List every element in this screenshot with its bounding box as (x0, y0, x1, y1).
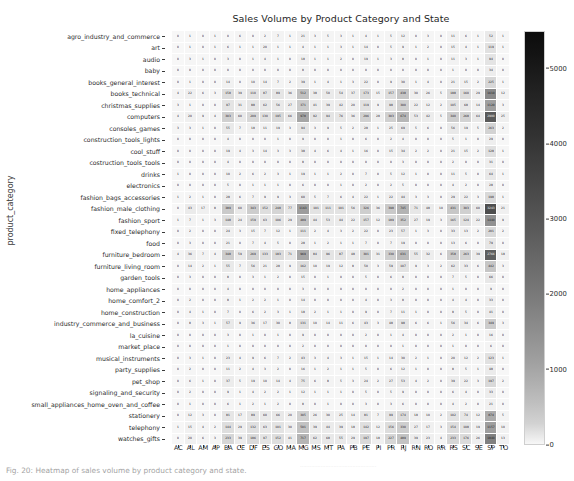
heatmap-cell-value: 6 (239, 35, 241, 38)
heatmap-cell: 0 (497, 66, 510, 78)
heatmap-cell: 39 (310, 422, 323, 434)
heatmap-cell-value: 28 (276, 265, 280, 268)
heatmap-cell: 4 (360, 296, 373, 308)
heatmap-cell-value: 0 (214, 196, 216, 199)
heatmap-cell: 1 (272, 330, 285, 342)
heatmap-cell-value: 1 (189, 46, 191, 49)
heatmap-cell-value: 3 (277, 173, 279, 176)
heatmap-cell-value: 9 (202, 115, 204, 118)
heatmap-cell-value: 4 (177, 92, 179, 95)
heatmap-cell: 0 (285, 135, 298, 147)
heatmap-cell: 1 (197, 353, 210, 365)
heatmap-cell-value: 0 (377, 138, 379, 141)
heatmap-cell-value: 27 (289, 104, 293, 107)
y-tick-label: fixed_telephony (18, 227, 168, 239)
heatmap-cell-value: 92 (314, 115, 318, 118)
heatmap-cell-value: 2 (289, 81, 291, 84)
y-tick-text: musical_instruments (96, 356, 160, 362)
heatmap-cell-value: 0 (239, 184, 241, 187)
x-tick-label: MA (285, 445, 298, 459)
heatmap-cell-value: 8 (227, 276, 229, 279)
heatmap-cell-value: 6 (239, 196, 241, 199)
heatmap-cell: 6 (460, 238, 473, 250)
heatmap-cell: 2 (310, 227, 323, 239)
heatmap-cell-value: 0 (502, 299, 504, 302)
heatmap-cell-value: 4 (365, 299, 367, 302)
heatmap-cell-value: 5 (327, 35, 329, 38)
heatmap-cell-value: 371 (300, 104, 306, 107)
heatmap-cell-value: 2 (440, 104, 442, 107)
heatmap-cell: 0 (247, 158, 260, 170)
heatmap-cell-value: 0 (214, 184, 216, 187)
heatmap-cell-value: 0 (177, 322, 179, 325)
heatmap-cell-value: 1 (340, 368, 342, 371)
heatmap-cell-value: 5 (415, 127, 417, 130)
heatmap-cell: 165 (447, 215, 460, 227)
heatmap-cell-value: 0 (214, 334, 216, 337)
heatmap-cell-value: 9 (302, 334, 304, 337)
heatmap-cell: 27 (385, 376, 398, 388)
heatmap-cell-value: 4 (452, 299, 454, 302)
heatmap-cell-value: 1 (415, 81, 417, 84)
heatmap-cell: 3 (410, 192, 423, 204)
heatmap-cell-value: 0 (502, 242, 504, 245)
heatmap-cell: 39 (322, 100, 335, 112)
heatmap-cell: 9 (397, 388, 410, 400)
colorbar-tick-text: 0 (550, 441, 554, 449)
heatmap-cell: 81 (360, 411, 373, 423)
heatmap-cell: 19 (460, 123, 473, 135)
heatmap-cell: 5 (435, 112, 448, 124)
heatmap-cell: 0 (235, 273, 248, 285)
heatmap-cell-value: 22 (464, 380, 468, 383)
heatmap-cell-value: 0 (340, 288, 342, 291)
heatmap-cell-value: 0 (289, 368, 291, 371)
heatmap-cell: 0 (372, 181, 385, 193)
heatmap-cell: 0 (197, 66, 210, 78)
heatmap-cell-value: 8 (189, 322, 191, 325)
heatmap-cell: 14 (385, 353, 398, 365)
heatmap-cell-value: 2 (327, 242, 329, 245)
heatmap-cell: 3 (272, 169, 285, 181)
heatmap-cell: 43 (360, 319, 373, 331)
heatmap-cell: 1 (372, 192, 385, 204)
heatmap-cell: 8 (397, 273, 410, 285)
heatmap-cell: 28 (372, 112, 385, 124)
heatmap-cell-value: 4 (289, 380, 291, 383)
heatmap-cell: 2 (385, 181, 398, 193)
heatmap-cell: 5 (497, 411, 510, 423)
heatmap-cell-value: 3 (189, 58, 191, 61)
heatmap-cell-value: 0 (177, 380, 179, 383)
heatmap-cell: 4 (460, 388, 473, 400)
heatmap-cell-value: 2 (189, 299, 191, 302)
heatmap-cell: 0 (435, 307, 448, 319)
heatmap-cell-value: 13 (464, 230, 468, 233)
heatmap-cell-value: 1163 (299, 207, 306, 210)
heatmap-cell: 2766 (485, 250, 498, 262)
x-tick-label: RS (447, 445, 460, 459)
heatmap-cell-value: 2 (427, 46, 429, 49)
heatmap-cell-value: 60 (264, 414, 268, 417)
heatmap-cell-value: 142 (363, 426, 369, 429)
heatmap-cell-value: 8 (402, 58, 404, 61)
heatmap-cell: 3 (185, 54, 198, 66)
heatmap-cell-value: 3 (289, 150, 291, 153)
heatmap-cell-value: 0 (177, 299, 179, 302)
heatmap-cell-value: 1 (477, 46, 479, 49)
heatmap-cell-value: 0 (440, 81, 442, 84)
heatmap-cell: 0 (410, 66, 423, 78)
heatmap-cell-value: 94 (301, 127, 305, 130)
heatmap-cell-value: 108 (463, 426, 469, 429)
heatmap-cell-value: 296 (363, 115, 369, 118)
heatmap-cell-value: 39 (339, 426, 343, 429)
heatmap-cell-value: 1 (377, 357, 379, 360)
heatmap-cell: 6 (397, 399, 410, 411)
heatmap-cell-value: 3243 (487, 207, 494, 210)
heatmap-cell-value: 1157 (487, 426, 494, 429)
heatmap-cell: 248 (272, 204, 285, 216)
heatmap-cell-value: 0 (440, 345, 442, 348)
heatmap-cell-value: 7 (377, 414, 379, 417)
heatmap-cell: 29 (235, 422, 248, 434)
heatmap-cell: 22 (472, 215, 485, 227)
heatmap-cell: 11 (222, 365, 235, 377)
heatmap-cell-value: 0 (214, 242, 216, 245)
